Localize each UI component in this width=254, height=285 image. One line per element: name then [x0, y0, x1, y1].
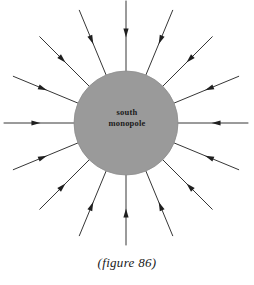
field-line-arrowhead: [159, 202, 165, 211]
field-line-arrowhead: [123, 209, 128, 218]
field-line-arrowhead: [212, 120, 221, 125]
field-line-arrowhead: [38, 156, 47, 162]
monopole-sphere: [74, 71, 178, 175]
field-line-arrowhead: [38, 84, 47, 90]
field-line-arrowhead: [159, 35, 165, 44]
field-line-arrowhead: [87, 202, 93, 211]
field-line-arrowhead: [205, 84, 214, 90]
field-line-arrowhead: [87, 35, 93, 44]
figure-container: south monopole (figure 86): [0, 0, 254, 285]
field-line-arrowhead: [205, 156, 214, 162]
figure-caption: (figure 86): [0, 255, 254, 271]
field-line-arrowhead: [31, 120, 40, 125]
monopole-field-diagram: [0, 0, 254, 254]
field-line-arrowhead: [123, 28, 128, 37]
